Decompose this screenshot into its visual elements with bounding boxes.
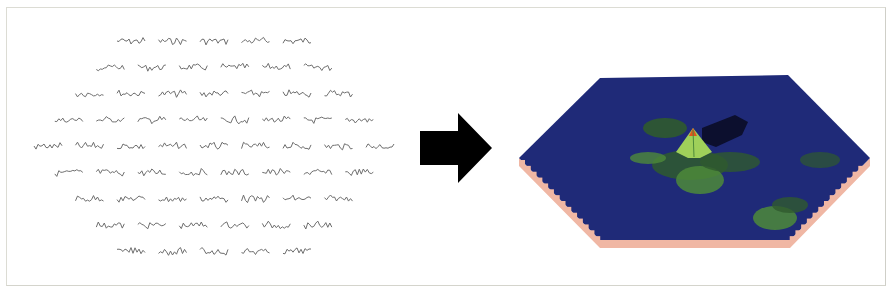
edge-tooth — [835, 189, 841, 194]
edge-tooth — [542, 183, 548, 188]
sensor-trace — [96, 222, 124, 228]
sensor-trace — [221, 169, 249, 175]
sensor-trace — [262, 116, 290, 122]
sensor-trace — [96, 117, 124, 122]
activation-region — [630, 152, 666, 164]
sensor-trace — [283, 195, 311, 200]
sensor-trace — [242, 249, 270, 255]
edge-tooth — [801, 224, 807, 229]
activation-region — [800, 152, 840, 168]
sensor-trace — [200, 248, 228, 256]
edge-tooth — [571, 213, 577, 218]
edge-tooth — [807, 219, 813, 224]
sensor-trace — [304, 221, 332, 229]
sensor-trace — [242, 90, 270, 97]
activation-region — [772, 197, 808, 213]
sensor-trace — [345, 169, 373, 176]
sensor-trace — [242, 195, 270, 203]
edge-tooth — [824, 201, 830, 206]
sensor-trace — [221, 222, 249, 228]
edge-tooth — [847, 178, 853, 183]
sensor-trace — [200, 39, 228, 45]
sensor-trace — [117, 38, 145, 44]
edge-tooth — [548, 189, 554, 194]
sensor-trace — [262, 63, 290, 69]
sensor-trace — [221, 116, 249, 124]
sensor-trace — [200, 196, 228, 202]
sensor-trace — [159, 142, 187, 148]
sensor-trace — [304, 117, 332, 123]
sensor-trace — [117, 196, 145, 202]
sensor-trace — [117, 248, 145, 254]
sensor-trace — [221, 63, 249, 68]
edge-tooth — [841, 183, 847, 188]
sensor-trace — [159, 90, 187, 97]
edge-tooth — [536, 178, 542, 183]
sensor-trace — [345, 118, 373, 123]
sensor-trace — [179, 222, 207, 229]
sensor-trace — [304, 64, 332, 71]
sensor-trace — [366, 144, 394, 149]
sensor-trace — [96, 65, 124, 71]
edge-tooth — [519, 160, 525, 165]
edge-tooth — [818, 207, 824, 212]
sensor-trace — [262, 221, 290, 228]
edge-tooth — [583, 224, 589, 229]
sensor-trace — [138, 65, 166, 71]
sensor-trace — [34, 143, 62, 149]
right-arrow-icon — [418, 113, 494, 185]
sensor-trace — [96, 169, 124, 176]
sensor-trace — [76, 196, 104, 202]
edge-tooth — [790, 236, 796, 241]
activation-region — [643, 118, 687, 138]
sensor-trace — [159, 38, 187, 45]
edge-tooth — [588, 230, 594, 235]
sensor-trace — [159, 197, 187, 202]
sensor-trace — [55, 170, 83, 177]
edge-tooth — [565, 207, 571, 212]
sensor-trace — [138, 116, 166, 123]
hexagonal-surface-map — [500, 50, 892, 260]
sensor-trace — [283, 90, 311, 97]
sensor-trace — [200, 142, 228, 149]
edge-tooth — [577, 219, 583, 224]
sensor-trace — [283, 142, 311, 149]
sensor-trace — [325, 144, 353, 150]
edge-tooth — [830, 195, 836, 200]
edge-tooth — [560, 201, 566, 206]
waveform-grid — [0, 0, 430, 292]
sensor-trace — [55, 118, 83, 122]
sensor-trace — [159, 248, 187, 256]
sensor-trace — [76, 142, 104, 148]
sensor-trace — [138, 223, 166, 229]
sensor-trace — [242, 37, 270, 43]
sensor-trace — [179, 64, 207, 70]
edge-tooth — [853, 172, 859, 177]
sensor-trace — [117, 90, 145, 96]
edge-tooth — [531, 172, 537, 177]
sensor-trace — [242, 142, 270, 148]
sensor-trace — [262, 169, 290, 176]
activation-region — [700, 152, 760, 172]
sensor-trace — [138, 169, 166, 176]
sensor-trace — [304, 169, 332, 174]
sensor-trace — [325, 90, 353, 97]
edge-tooth — [813, 213, 819, 218]
edge-tooth — [858, 166, 864, 171]
sensor-trace — [179, 116, 207, 121]
edge-tooth — [784, 242, 790, 247]
sensor-trace — [179, 169, 207, 176]
edge-tooth — [795, 230, 801, 235]
sensor-trace — [76, 93, 104, 97]
sensor-trace — [325, 195, 353, 201]
edge-tooth — [554, 195, 560, 200]
sensor-trace — [200, 91, 228, 97]
edge-tooth — [525, 166, 531, 171]
sensor-trace — [117, 144, 145, 149]
edge-tooth — [594, 236, 600, 241]
sensor-trace — [283, 38, 311, 44]
sensor-trace — [283, 248, 311, 254]
